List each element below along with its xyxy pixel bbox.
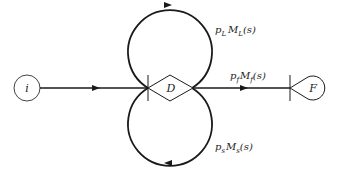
signal-flow-diagram: i D F pLML(s) pfMf(s) psMs(s)	[0, 0, 340, 171]
final-node-label: F	[308, 82, 317, 95]
arrow-right-icon	[240, 85, 248, 91]
start-node: i	[14, 75, 40, 101]
decision-node: D	[148, 75, 193, 101]
arrow-left-icon	[164, 2, 172, 8]
start-node-label: i	[25, 82, 29, 95]
loop-bottom-label: psMs(s)	[215, 141, 253, 155]
decision-node-label: D	[166, 82, 176, 95]
final-node: F	[290, 76, 325, 100]
arrow-right-icon	[92, 85, 100, 91]
forward-label: pfMf(s)	[230, 70, 266, 84]
loop-top-label: pLML(s)	[215, 24, 256, 38]
input-edge	[40, 85, 148, 91]
forward-edge	[193, 85, 290, 91]
